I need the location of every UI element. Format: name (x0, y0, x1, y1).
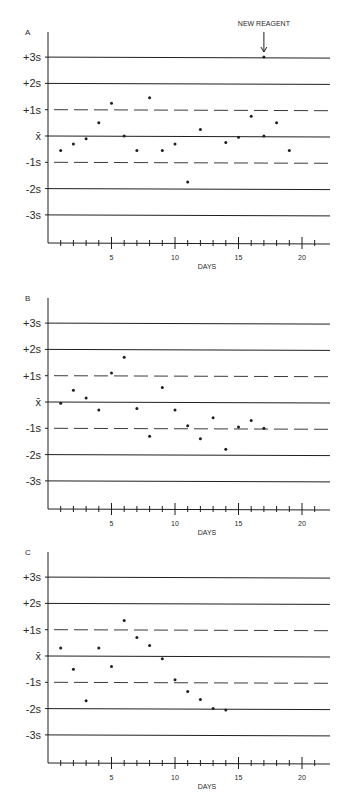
data-point (85, 137, 88, 140)
data-point (85, 699, 88, 702)
y-level-label: -2s (26, 449, 42, 461)
x-axis (48, 509, 330, 510)
x-tick-label: 20 (298, 520, 306, 527)
data-point (135, 149, 138, 152)
data-point (174, 142, 177, 145)
control-limit-line (48, 215, 330, 216)
data-point (72, 142, 75, 145)
control-limit-line (48, 349, 330, 350)
x-tick-label: 5 (110, 520, 114, 527)
data-point (262, 56, 265, 59)
y-level-label: -1s (26, 676, 42, 688)
y-level-label: -3s (26, 209, 42, 221)
x-tick-label: 10 (171, 520, 179, 527)
y-level-label: +2s (23, 77, 42, 89)
data-point (224, 708, 227, 711)
x-axis-title: DAYS (198, 263, 217, 270)
data-point (123, 619, 126, 622)
control-limit-line (54, 376, 330, 377)
data-point (72, 389, 75, 392)
control-limit-line (48, 83, 330, 84)
data-point (110, 102, 113, 105)
data-point (59, 149, 62, 152)
y-level-label: -3s (26, 729, 42, 741)
data-point (59, 402, 62, 405)
data-point (250, 419, 253, 422)
x-tick-label: 10 (171, 254, 179, 261)
new-reagent-annotation: NEW REAGENT (238, 20, 291, 27)
data-point (186, 424, 189, 427)
x-tick-label: 5 (110, 774, 114, 781)
control-limit-line (54, 630, 330, 631)
data-point (174, 678, 177, 681)
x-axis-title: DAYS (198, 783, 217, 790)
x-tick-label: 15 (235, 774, 243, 781)
data-point (59, 647, 62, 650)
x-tick-label: 5 (110, 254, 114, 261)
control-limit-line (48, 323, 330, 324)
data-point (123, 356, 126, 359)
charts-canvas: A+3s+2s+1sx̄-1s-2s-3s5101520DAYSNEW REAG… (0, 0, 347, 800)
data-point (262, 135, 265, 138)
chart-panel-b: B+3s+2s+1sx̄-1s-2s-3s5101520DAYS (23, 294, 330, 536)
data-point (199, 437, 202, 440)
chart-panel-c: C+3s+2s+1sx̄-1s-2s-3s5101520DAYS (23, 548, 330, 790)
control-limit-line (48, 735, 330, 736)
panel-letter: A (25, 28, 31, 37)
y-level-label: -1s (26, 156, 42, 168)
data-point (288, 149, 291, 152)
y-level-label: +3s (23, 51, 42, 63)
data-point (186, 181, 189, 184)
control-limit-line (48, 656, 330, 657)
x-tick-label: 15 (235, 254, 243, 261)
y-level-label: +2s (23, 343, 42, 355)
data-point (237, 425, 240, 428)
data-point (148, 96, 151, 99)
data-point (135, 636, 138, 639)
y-level-label: -2s (26, 703, 42, 715)
control-limit-line (48, 189, 330, 190)
y-level-label: -1s (26, 422, 42, 434)
y-level-label: x̄ (36, 396, 42, 408)
y-level-label: x̄ (36, 650, 42, 662)
control-limit-line (48, 57, 330, 58)
y-level-label: +1s (23, 104, 42, 116)
data-point (199, 698, 202, 701)
data-point (161, 149, 164, 152)
data-point (161, 657, 164, 660)
control-limit-line (54, 110, 330, 111)
y-level-label: +3s (23, 317, 42, 329)
panel-letter: C (25, 548, 31, 557)
data-point (161, 386, 164, 389)
data-point (224, 141, 227, 144)
panel-letter: B (25, 294, 30, 303)
data-point (212, 707, 215, 710)
data-point (110, 665, 113, 668)
chart-panel-a: A+3s+2s+1sx̄-1s-2s-3s5101520DAYSNEW REAG… (23, 20, 330, 270)
control-limit-line (48, 603, 330, 604)
control-limit-line (48, 709, 330, 710)
data-point (199, 128, 202, 131)
y-level-label: x̄ (36, 130, 42, 142)
x-tick-label: 10 (171, 774, 179, 781)
data-point (97, 647, 100, 650)
data-point (135, 407, 138, 410)
y-level-label: -2s (26, 183, 42, 195)
x-tick-label: 20 (298, 254, 306, 261)
x-axis (48, 763, 330, 764)
data-point (275, 121, 278, 124)
control-limit-line (48, 402, 330, 403)
data-point (148, 644, 151, 647)
control-limit-line (54, 162, 330, 163)
y-level-label: +3s (23, 571, 42, 583)
data-point (237, 136, 240, 139)
data-point (224, 448, 227, 451)
control-limit-line (54, 428, 330, 429)
x-axis-title: DAYS (198, 529, 217, 536)
data-point (85, 397, 88, 400)
data-point (97, 408, 100, 411)
data-point (110, 372, 113, 375)
x-tick-label: 20 (298, 774, 306, 781)
control-limit-line (54, 682, 330, 683)
data-point (250, 115, 253, 118)
